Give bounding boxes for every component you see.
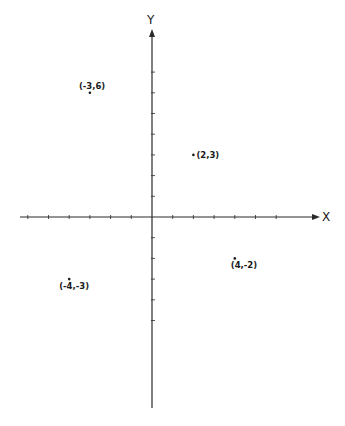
point-label: (2,3)	[196, 150, 219, 160]
data-point: (-4,-3)	[59, 278, 89, 291]
point-marker	[89, 92, 92, 95]
point-label: (4,-2)	[231, 260, 257, 270]
data-points: (-3,6)(2,3)(-4,-3)(4,-2)	[59, 81, 257, 291]
y-axis-label: Y	[146, 13, 155, 27]
x-axis-arrow-icon	[312, 214, 320, 220]
data-point: (2,3)	[192, 150, 219, 160]
x-axis-label: X	[322, 210, 330, 224]
point-label: (-3,6)	[79, 81, 105, 91]
point-label: (-4,-3)	[59, 281, 89, 291]
y-axis-arrow-icon	[149, 29, 155, 37]
data-point: (-3,6)	[79, 81, 105, 94]
point-marker	[192, 154, 195, 157]
point-marker	[68, 278, 71, 281]
data-point: (4,-2)	[231, 257, 257, 270]
point-marker	[234, 257, 237, 260]
coordinate-plane: X Y (-3,6)(2,3)(-4,-3)(4,-2)	[0, 0, 345, 426]
